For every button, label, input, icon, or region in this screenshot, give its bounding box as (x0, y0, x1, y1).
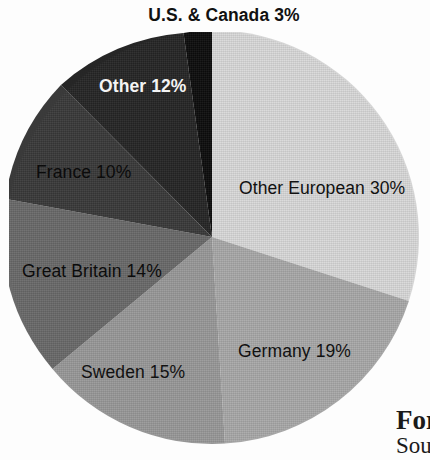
figure-caption-subtitle: Sources (396, 434, 430, 458)
slice-label-us-canada-text: U.S. & Canada 3% (130, 5, 299, 26)
slice-label-france: France 10% (36, 162, 131, 183)
slice-label-great-britain: Great Britain 14% (22, 261, 162, 282)
slice-label-other-european: Other European 30% (239, 178, 405, 199)
pie-graphic (9, 32, 430, 456)
slice-label-sweden: Sweden 15% (81, 362, 185, 383)
slice-label-germany: Germany 19% (238, 341, 351, 362)
figure-caption-cropped: Foreign Sources (396, 406, 430, 458)
pie-chart-figure: U.S. & Canada 3% Other European 30% Germ… (0, 0, 430, 460)
pie-svg (9, 32, 430, 456)
slice-label-other: Other 12% (99, 76, 186, 97)
slice-label-us-canada: U.S. & Canada 3% (0, 5, 430, 26)
figure-caption-title: Foreign (396, 406, 430, 434)
